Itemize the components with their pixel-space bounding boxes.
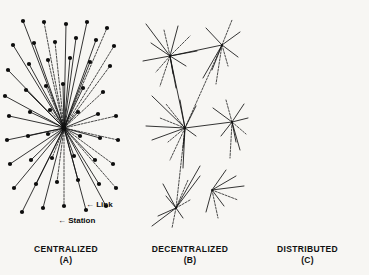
centralized-station <box>94 38 98 42</box>
caption-centralized: CENTRALIZED (A) <box>0 244 132 266</box>
decentralized-link <box>160 56 170 86</box>
graph-centralized <box>3 19 120 214</box>
centralized-station <box>76 110 80 114</box>
centralized-hub-station <box>61 125 66 130</box>
centralized-station <box>46 58 50 62</box>
centralized-station <box>98 136 102 140</box>
decentralized-link <box>232 122 240 150</box>
centralized-station <box>24 88 28 92</box>
centralized-station <box>72 154 76 158</box>
centralized-station <box>3 94 7 98</box>
centralized-link <box>26 90 64 128</box>
centralized-link <box>64 62 90 128</box>
decentralized-link <box>152 208 176 226</box>
centralized-station <box>29 158 33 162</box>
caption-centralized-letter: (A) <box>0 255 132 266</box>
centralized-station <box>20 210 24 214</box>
centralized-station <box>112 44 116 48</box>
decentralized-link <box>176 166 200 208</box>
decentralized-link <box>222 45 228 66</box>
graph-decentralized <box>143 20 248 228</box>
centralized-station <box>8 162 12 166</box>
decentralized-link <box>212 45 222 70</box>
centralized-link <box>64 128 86 210</box>
network-topology-figure <box>0 0 369 275</box>
decentralized-link <box>166 196 176 208</box>
centralized-station <box>53 40 57 44</box>
decentralized-link <box>203 45 222 78</box>
centralized-station <box>74 36 78 40</box>
centralized-station <box>12 186 16 190</box>
caption-distributed: DISTRIBUTED (C) <box>246 244 369 266</box>
network-diagram-svg <box>0 0 369 275</box>
centralized-link <box>9 116 64 128</box>
centralized-station <box>27 62 31 66</box>
decentralized-link <box>221 122 232 136</box>
centralized-station <box>26 134 30 138</box>
centralized-station <box>48 108 52 112</box>
centralized-station <box>78 134 82 138</box>
decentralized-link <box>185 128 196 136</box>
decentralized-link <box>176 208 183 218</box>
centralized-station <box>6 68 10 72</box>
centralized-station <box>97 182 101 186</box>
decentralized-link <box>146 126 185 128</box>
decentralized-link <box>185 122 232 128</box>
decentralized-link <box>206 190 212 212</box>
centralized-link <box>64 92 103 128</box>
centralized-link <box>64 128 118 140</box>
centralized-station <box>96 112 100 116</box>
decentralized-link <box>163 184 176 208</box>
decentralized-link <box>206 28 222 45</box>
centralized-station <box>88 60 92 64</box>
decentralized-link <box>230 122 232 158</box>
centralized-station <box>50 156 54 160</box>
centralized-station <box>76 178 80 182</box>
centralized-station <box>7 114 11 118</box>
annotation-station: ← Station <box>58 216 95 225</box>
centralized-station <box>68 56 72 60</box>
centralized-station <box>64 22 68 26</box>
decentralized-link <box>170 56 185 128</box>
centralized-station <box>93 158 97 162</box>
centralized-station <box>101 90 105 94</box>
decentralized-link <box>168 128 185 142</box>
caption-decentralized-letter: (B) <box>124 255 256 266</box>
centralized-station <box>41 206 45 210</box>
caption-distributed-title: DISTRIBUTED <box>246 244 369 255</box>
centralized-station <box>105 26 109 30</box>
decentralized-link <box>185 45 222 128</box>
decentralized-link <box>213 108 232 122</box>
centralized-station <box>114 114 118 118</box>
decentralized-link <box>176 128 185 208</box>
centralized-station <box>42 20 46 24</box>
centralized-station <box>44 84 48 88</box>
centralized-station <box>11 43 15 47</box>
centralized-station <box>55 180 59 184</box>
centralized-station <box>46 132 50 136</box>
centralized-station <box>108 64 112 68</box>
caption-centralized-title: CENTRALIZED <box>0 244 132 255</box>
caption-decentralized-title: DECENTRALIZED <box>124 244 256 255</box>
centralized-link <box>46 86 64 128</box>
centralized-station <box>5 138 9 142</box>
centralized-station <box>111 162 115 166</box>
decentralized-link <box>170 26 178 56</box>
caption-distributed-letter: (C) <box>246 255 369 266</box>
centralized-station <box>114 186 118 190</box>
centralized-station <box>28 110 32 114</box>
centralized-link <box>63 84 64 128</box>
centralized-station <box>81 86 85 90</box>
decentralized-link <box>170 45 222 56</box>
caption-decentralized: DECENTRALIZED (B) <box>124 244 256 266</box>
decentralized-link <box>170 56 186 66</box>
decentralized-link <box>212 170 226 190</box>
annotation-link: ← Link <box>86 200 113 209</box>
centralized-station <box>116 138 120 142</box>
decentralized-link <box>222 45 238 57</box>
centralized-station <box>34 182 38 186</box>
centralized-station <box>21 19 25 23</box>
centralized-link <box>22 128 64 212</box>
centralized-station <box>62 204 66 208</box>
decentralized-link <box>212 176 236 190</box>
